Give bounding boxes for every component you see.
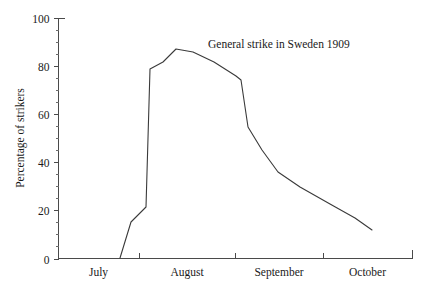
y-axis-tick-labels: 020406080100 [32,13,50,266]
y-tick-label: 100 [32,13,50,25]
y-axis-title: Percentage of strikers [14,88,27,188]
line-chart: 020406080100 JulyAugustSeptemberOctober … [0,0,428,299]
chart-annotations: General strike in Sweden 1909 [208,38,350,50]
x-tick-label: September [254,266,303,279]
data-series-line [120,49,372,258]
x-tick-label: October [349,266,386,278]
x-tick-label: July [89,266,108,279]
y-tick-label: 40 [38,157,50,169]
y-tick-label: 60 [38,109,50,121]
chart-container: 020406080100 JulyAugustSeptemberOctober … [0,0,428,299]
x-axis-tick-labels: JulyAugustSeptemberOctober [89,266,386,279]
y-tick-label: 80 [38,61,50,73]
chart-annotation-text: General strike in Sweden 1909 [208,38,350,50]
y-tick-label: 0 [44,254,50,266]
axis-lines [59,18,413,259]
y-tick-label: 20 [38,205,50,217]
x-axis-ticks [140,253,324,259]
x-tick-label: August [170,266,204,279]
